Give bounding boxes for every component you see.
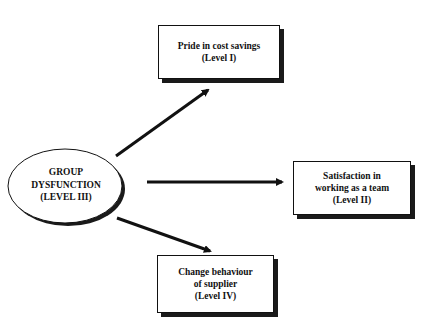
level-ii-line-2: working as a team [315, 182, 389, 194]
center-line-2: DYSFUNCTION [18, 179, 114, 192]
group-dysfunction-label: GROUP DYSFUNCTION (LEVEL III) [18, 166, 114, 204]
center-line-1: GROUP [18, 166, 114, 179]
arrow-to-level-i [116, 90, 208, 156]
level-iv-line-3: (Level IV) [178, 290, 253, 302]
node-level-ii: Satisfaction in working as a team (Level… [293, 161, 411, 215]
level-iv-line-1: Change behaviour [178, 266, 253, 278]
arrow-to-level-iv [117, 218, 210, 251]
level-ii-line-3: (Level II) [315, 194, 389, 206]
node-level-iv: Change behaviour of supplier (Level IV) [157, 255, 274, 313]
level-i-line-1: Pride in cost savings [178, 40, 261, 52]
level-iv-line-2: of supplier [178, 278, 253, 290]
diagram-canvas: GROUP DYSFUNCTION (LEVEL III) Pride in c… [0, 0, 437, 329]
level-ii-line-1: Satisfaction in [315, 170, 389, 182]
level-i-line-2: (Level I) [178, 52, 261, 64]
center-line-3: (LEVEL III) [18, 191, 114, 204]
node-level-i: Pride in cost savings (Level I) [158, 25, 280, 79]
